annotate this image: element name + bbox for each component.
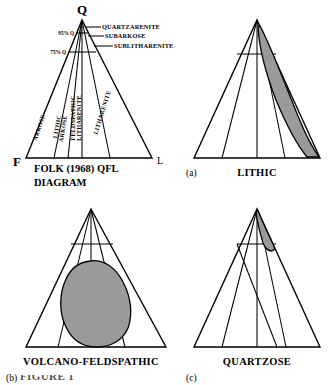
folk-label-quartzarenite: QUARTZARENITE: [102, 23, 160, 30]
panel-c-quartzose: QUARTZOSE (c): [180, 190, 335, 385]
folk-vertex-f: F: [13, 154, 21, 169]
volcano-panel-tag: (b): [6, 373, 17, 384]
folk-label-sublitharenite: SUBLITHARENITE: [114, 42, 174, 49]
folk-vertex-l: L: [157, 155, 163, 166]
folk-label-95-percent-q: 95% Q: [58, 30, 74, 36]
figure-number-text: FIGURE 1: [20, 375, 270, 382]
figure-number-caption: FIGURE 1: [20, 375, 270, 385]
folk-caption-line-1: FOLK (1968) QFL: [34, 163, 119, 175]
folk-caption-line-2: DIAGRAM: [34, 177, 87, 188]
folk-diagram-svg: Q F L 95% Q 75% Q QUARTZARENITE SUBARKOS…: [0, 0, 180, 190]
volcano-feldspathic-diagram-svg: VOLCANO-FELDSPATHIC (b): [0, 190, 180, 385]
volcano-panel-title: VOLCANO-FELDSPATHIC: [23, 356, 159, 367]
folk-label-feldspathic-litharenite: LITHARENITE: [76, 95, 82, 141]
panel-a-lithic: (a) LITHIC: [180, 0, 335, 190]
figure-root: Q F L 95% Q 75% Q QUARTZARENITE SUBARKOS…: [0, 0, 335, 385]
folk-vertex-q: Q: [77, 2, 87, 17]
lithic-panel-tag: (a): [186, 168, 197, 179]
folk-label-75-percent-q: 75% Q: [50, 49, 66, 55]
lithic-diagram-svg: (a) LITHIC: [180, 0, 335, 190]
quartzose-panel-title: QUARTZOSE: [223, 356, 291, 367]
lithic-panel-title: LITHIC: [237, 167, 277, 178]
folk-label-subarkose: SUBARKOSE: [105, 32, 146, 39]
panel-b-volcano-feldspathic: VOLCANO-FELDSPATHIC (b): [0, 190, 180, 385]
panel-folk-qfl-diagram: Q F L 95% Q 75% Q QUARTZARENITE SUBARKOS…: [0, 0, 180, 190]
quartzose-diagram-svg: QUARTZOSE (c): [180, 190, 335, 385]
folk-triangle-outline: [26, 20, 152, 158]
